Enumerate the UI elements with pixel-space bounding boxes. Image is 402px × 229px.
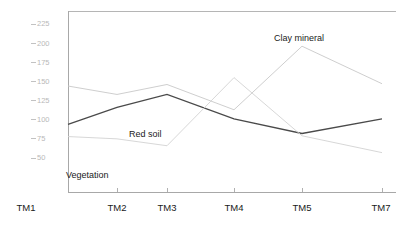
y-tick-label: 175 (37, 58, 50, 67)
series-line-clay-mineral (68, 46, 382, 110)
chart-canvas: 5075100125150175200225 TM1TM2TM3TM4TM5TM… (0, 0, 402, 229)
y-tick-label: 225 (37, 19, 50, 28)
x-tick-label-tm2: TM2 (108, 202, 127, 213)
series-annotation-group: Clay mineralRed soilVegetation (66, 33, 324, 180)
x-tick-label-tm4: TM4 (225, 202, 244, 213)
x-tick-label-tm3: TM3 (158, 202, 177, 213)
y-tick-label: 150 (37, 77, 50, 86)
series-group (68, 46, 382, 152)
series-line-red-soil (68, 94, 382, 133)
y-tick-label: 75 (37, 134, 45, 143)
y-tick-label: 125 (37, 96, 50, 105)
series-annotation-red-soil: Red soil (129, 129, 162, 139)
x-tick-label-tm5: TM5 (293, 202, 312, 213)
x-tick-label-tm1: TM1 (17, 202, 36, 213)
y-tick-label: 50 (37, 153, 45, 162)
series-annotation-vegetation: Vegetation (66, 170, 109, 180)
x-tick-label-tm7: TM7 (372, 202, 391, 213)
spectral-reflectance-line-chart: 5075100125150175200225 TM1TM2TM3TM4TM5TM… (0, 0, 402, 229)
y-tick-label: 200 (37, 39, 50, 48)
series-annotation-clay-mineral: Clay mineral (274, 33, 324, 43)
y-axis-tick-group: 5075100125150175200225 (31, 19, 50, 162)
x-axis-tick-group: TM1TM2TM3TM4TM5TM7 (17, 188, 391, 213)
y-tick-label: 100 (37, 115, 50, 124)
